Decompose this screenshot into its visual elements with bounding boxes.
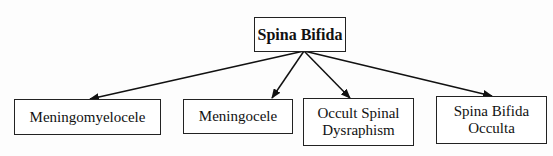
child-node-label: Meningomyelocele bbox=[30, 109, 146, 126]
child-node-meningocele: Meningocele bbox=[183, 99, 293, 134]
child-node-meningomyelocele: Meningomyelocele bbox=[14, 99, 161, 135]
arrow-to-meningocele bbox=[272, 51, 304, 98]
child-node-label: Spina Bifida Occulta bbox=[449, 103, 534, 137]
root-node-label: Spina Bifida bbox=[258, 26, 343, 43]
child-node-label: Meningocele bbox=[199, 108, 277, 125]
arrow-to-spina-bifida-occulta bbox=[304, 51, 492, 96]
root-node-spina-bifida: Spina Bifida bbox=[254, 17, 346, 52]
arrow-to-meningomyelocele bbox=[90, 51, 304, 99]
arrow-to-occult-spinal-dysraphism bbox=[304, 51, 350, 98]
child-node-occult-spinal-dysraphism: Occult Spinal Dysraphism bbox=[303, 98, 414, 146]
child-node-label: Occult Spinal Dysraphism bbox=[312, 105, 405, 139]
child-node-spina-bifida-occulta: Spina Bifida Occulta bbox=[436, 96, 547, 144]
